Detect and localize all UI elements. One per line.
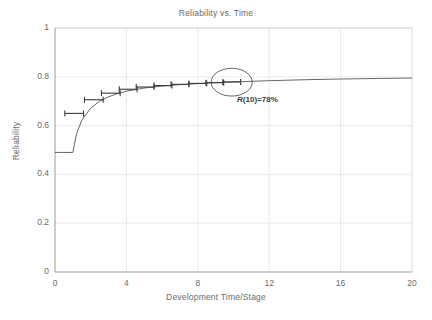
reliability-curve [55,78,412,152]
gridlines [55,28,412,272]
reliability-callout-label: R(10)=78% [237,95,278,104]
error-bars [65,79,241,116]
axis-frame [55,28,412,272]
chart-figure: Reliability vs. Time Development Time/St… [0,0,432,320]
plot-canvas [0,0,432,320]
